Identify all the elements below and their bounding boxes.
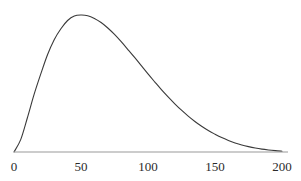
density-plot — [0, 0, 301, 181]
plot-background — [0, 0, 301, 181]
chart-figure: 050100150200 — [0, 0, 301, 181]
